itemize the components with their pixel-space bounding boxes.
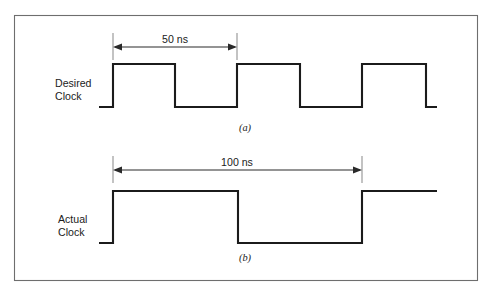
clock-waveform-figure: 50 ns Desired Clock (a) 100 ns Actual Cl… [0,0,491,293]
dimension-label-a: 50 ns [162,33,188,45]
caption-b: (b) [239,252,252,264]
clipped-header-text [104,0,364,6]
trace-label-a-line2: Clock [55,90,82,102]
figure-canvas: 50 ns Desired Clock (a) 100 ns Actual Cl… [0,0,491,293]
trace-label-b-line2: Clock [58,226,85,238]
figure-border [15,16,478,281]
caption-a: (a) [239,122,252,134]
dimension-label-b: 100 ns [221,156,253,168]
trace-label-b-line1: Actual [58,213,87,225]
trace-label-a-line1: Desired [55,77,92,89]
